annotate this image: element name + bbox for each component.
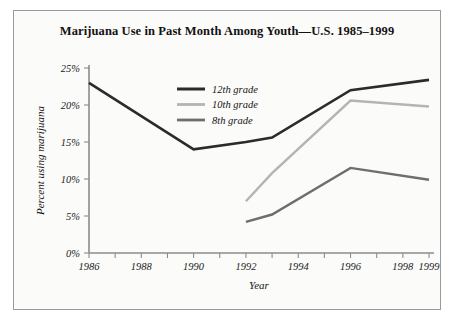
y-axis-title: Percent using marijuana <box>34 106 46 216</box>
x-tick-label: 1988 <box>131 261 153 272</box>
chart-plot-area: 0%5%10%15%20%25% 19861988199019921994199… <box>14 11 442 311</box>
x-axis-ticks: 19861988199019921994199619981999 <box>79 253 441 272</box>
x-tick-label: 1999 <box>419 261 441 272</box>
x-axis-title: Year <box>249 279 269 291</box>
series-line-8th-grade <box>246 168 429 222</box>
series-line-10th-grade <box>246 101 429 202</box>
chart-figure: Marijuana Use in Past Month Among Youth—… <box>13 10 441 310</box>
x-tick-label: 1998 <box>392 261 414 272</box>
y-tick-label: 10% <box>61 174 81 185</box>
y-tick-label: 5% <box>66 211 80 222</box>
x-tick-label: 1994 <box>288 261 310 272</box>
series-line-12th-grade <box>89 80 429 150</box>
y-tick-label: 20% <box>61 100 81 111</box>
x-tick-label: 1986 <box>79 261 101 272</box>
legend-label: 10th grade <box>212 99 258 110</box>
legend-label: 12th grade <box>212 84 258 95</box>
x-tick-label: 1996 <box>340 261 362 272</box>
legend-label: 8th grade <box>212 115 253 126</box>
y-tick-label: 25% <box>61 63 81 74</box>
chart-legend: 12th grade10th grade8th grade <box>177 84 258 126</box>
y-tick-label: 15% <box>61 137 81 148</box>
y-axis-ticks: 0%5%10%15%20%25% <box>61 63 89 259</box>
y-tick-label: 0% <box>66 248 80 259</box>
x-tick-label: 1992 <box>235 261 257 272</box>
data-series-group <box>89 80 429 222</box>
x-tick-label: 1990 <box>183 261 205 272</box>
